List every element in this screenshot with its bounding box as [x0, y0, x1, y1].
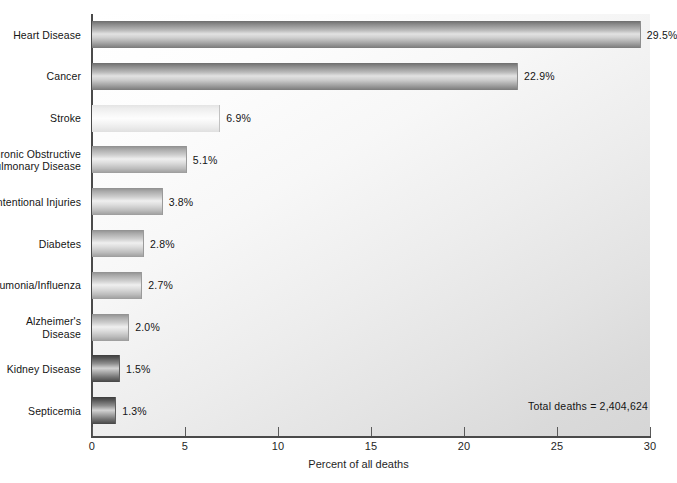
bar-row: Stroke6.9% [0, 105, 667, 132]
x-tick-label: 10 [258, 440, 298, 452]
bar-container[interactable] [92, 105, 220, 132]
bar-row: Kidney Disease1.5% [0, 355, 667, 382]
bar[interactable] [92, 272, 142, 299]
x-tick-label: 15 [351, 440, 391, 452]
bar-container[interactable] [92, 146, 187, 173]
bar-row: Pneumonia/Influenza2.7% [0, 272, 667, 299]
bar-row: Chronic ObstructivePulmonary Disease5.1% [0, 146, 667, 173]
bar-container[interactable] [92, 355, 120, 382]
bar-container[interactable] [92, 314, 129, 341]
bar-container[interactable] [92, 397, 116, 424]
bar-row: Alzheimer'sDisease2.0% [0, 314, 667, 341]
bar[interactable] [92, 21, 641, 48]
x-tick-label: 30 [630, 440, 670, 452]
bar-value-label: 2.8% [150, 238, 175, 250]
x-tick-label: 20 [444, 440, 484, 452]
bar-value-label: 1.3% [122, 405, 147, 417]
x-tick-mark [92, 427, 93, 436]
category-label-line: Pulmonary Disease [0, 160, 81, 173]
category-label-line: Unintentional Injuries [0, 195, 81, 208]
x-tick-label: 0 [72, 440, 112, 452]
bar-value-label: 29.5% [647, 29, 677, 41]
bar-container[interactable] [92, 188, 163, 215]
bar-value-label: 3.8% [169, 196, 194, 208]
category-label-line: Heart Disease [0, 28, 81, 41]
x-tick-mark [557, 427, 558, 436]
bar-row: Heart Disease29.5% [0, 21, 667, 48]
category-label: Kidney Disease [0, 363, 81, 376]
bar-value-label: 2.7% [148, 279, 173, 291]
bar-container[interactable] [92, 272, 142, 299]
bar-value-label: 22.9% [524, 70, 555, 82]
x-axis-line [91, 436, 651, 438]
category-label-line: Stroke [0, 112, 81, 125]
x-tick-mark [464, 427, 465, 436]
bar-value-label: 5.1% [193, 154, 218, 166]
category-label: Heart Disease [0, 28, 81, 41]
bar-container[interactable] [92, 21, 641, 48]
category-label-line: Cancer [0, 70, 81, 83]
bar[interactable] [92, 355, 120, 382]
x-tick-mark [650, 427, 651, 436]
category-label-line: Disease [0, 327, 81, 340]
category-label: Pneumonia/Influenza [0, 279, 81, 292]
category-label: Alzheimer'sDisease [0, 315, 81, 340]
category-label: Unintentional Injuries [0, 195, 81, 208]
x-tick-label: 5 [165, 440, 205, 452]
bar-row: Cancer22.9% [0, 63, 667, 90]
bar-value-label: 2.0% [135, 321, 160, 333]
bar-value-label: 1.5% [126, 363, 151, 375]
bar-container[interactable] [92, 63, 518, 90]
category-label: Diabetes [0, 237, 81, 250]
category-label: Stroke [0, 112, 81, 125]
x-tick-mark [278, 427, 279, 436]
category-label-line: Alzheimer's [0, 315, 81, 328]
category-label-line: Diabetes [0, 237, 81, 250]
x-tick-mark [371, 427, 372, 436]
bar[interactable] [92, 146, 187, 173]
x-tick-mark [185, 427, 186, 436]
category-label: Septicemia [0, 404, 81, 417]
x-axis-title: Percent of all deaths [0, 458, 667, 470]
bar[interactable] [92, 105, 220, 132]
bar[interactable] [92, 188, 163, 215]
bar-container[interactable] [92, 230, 144, 257]
category-label: Chronic ObstructivePulmonary Disease [0, 147, 81, 172]
category-label-line: Kidney Disease [0, 363, 81, 376]
x-tick-label: 25 [537, 440, 577, 452]
category-label: Cancer [0, 70, 81, 83]
bar[interactable] [92, 314, 129, 341]
bar-value-label: 6.9% [226, 112, 251, 124]
category-label-line: Pneumonia/Influenza [0, 279, 81, 292]
bar-row: Diabetes2.8% [0, 230, 667, 257]
bar-row: Unintentional Injuries3.8% [0, 188, 667, 215]
x-axis-title-text: Percent of all deaths [308, 458, 408, 470]
bar[interactable] [92, 63, 518, 90]
category-label-line: Septicemia [0, 404, 81, 417]
bar[interactable] [92, 397, 116, 424]
total-deaths-annotation: Total deaths = 2,404,624 [528, 400, 648, 412]
category-label-line: Chronic Obstructive [0, 147, 81, 160]
bar[interactable] [92, 230, 144, 257]
